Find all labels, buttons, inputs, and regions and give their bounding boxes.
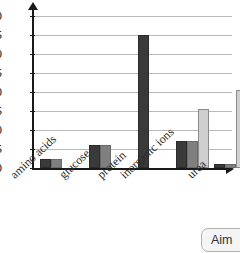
bar-urea-series-1-dark xyxy=(214,164,225,168)
bar-amino-acids-series-1-dark xyxy=(40,159,51,169)
bar-chart: 40 35 30 25 20 15 10 5 0 amino acids glu… xyxy=(0,0,240,253)
y-axis-arrow-icon xyxy=(28,2,38,10)
bar-group-glucose xyxy=(89,16,111,168)
y-tick-label: 0 xyxy=(0,162,2,175)
bar-urea-series-2-medium xyxy=(225,164,236,168)
bar-inorganic-ions-series-1-dark xyxy=(176,141,187,168)
bar-group-inorganic-ions xyxy=(176,16,209,168)
bar-groups xyxy=(34,16,228,168)
y-tick-label: 15 xyxy=(0,105,2,118)
bar-urea-series-3-light xyxy=(236,90,240,168)
y-tick-label: 40 xyxy=(0,10,2,23)
y-tick-label: 10 xyxy=(0,124,2,137)
aim-button[interactable]: Aim xyxy=(201,228,240,252)
y-tick-label: 35 xyxy=(0,29,2,42)
y-tick-label: 20 xyxy=(0,86,2,99)
bar-group-urea xyxy=(214,16,240,168)
y-tick-label: 30 xyxy=(0,48,2,61)
y-tick-label: 5 xyxy=(0,143,2,156)
y-tick-label: 25 xyxy=(0,67,2,80)
